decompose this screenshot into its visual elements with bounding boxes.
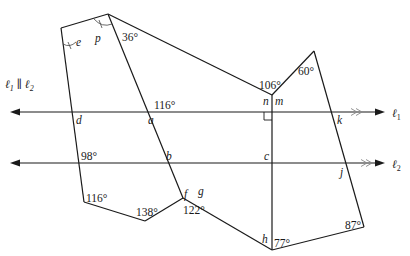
angle-arc-p-icon <box>94 19 112 25</box>
angle-138: 138° <box>136 206 158 218</box>
figure-edges <box>61 14 364 250</box>
angle-116-bottom: 116° <box>86 192 108 204</box>
var-g: g <box>198 185 204 198</box>
angle-116-top: 116° <box>154 99 176 111</box>
angle-60: 60° <box>298 65 315 77</box>
parallel-line-l1 <box>10 109 385 116</box>
var-p: p <box>94 32 101 45</box>
angle-87: 87° <box>345 219 362 231</box>
var-h: h <box>262 233 268 245</box>
var-c: c <box>264 150 269 162</box>
arrowhead-left-l1-icon <box>10 109 20 116</box>
parallel-line-l2 <box>10 160 385 167</box>
var-m: m <box>275 95 283 107</box>
line-label-l2: ℓ2 <box>392 158 401 173</box>
angle-106: 106° <box>259 79 281 91</box>
geometry-diagram: ℓ1 ∥ ℓ2 ℓ1 ℓ2 36° 116° 106° 60° 98° 116°… <box>0 0 410 256</box>
angle-77: 77° <box>274 237 291 249</box>
var-d: d <box>76 114 82 126</box>
var-k: k <box>337 114 343 126</box>
arrowhead-right-l1-icon <box>375 109 385 116</box>
right-angle-mark-icon <box>264 112 272 120</box>
var-a: a <box>148 114 154 126</box>
var-b: b <box>166 150 172 162</box>
angle-arcs <box>63 19 112 49</box>
var-e: e <box>76 36 81 48</box>
angle-36: 36° <box>122 31 139 43</box>
arrowhead-left-l2-icon <box>10 160 20 167</box>
line-label-l1: ℓ1 <box>392 107 401 122</box>
var-n: n <box>263 95 269 107</box>
parallel-statement-label: ℓ1 ∥ ℓ2 <box>5 78 34 93</box>
arc-tick-p-icon <box>99 20 102 28</box>
var-f: f <box>184 188 189 201</box>
angle-122: 122° <box>183 204 205 216</box>
arrowhead-right-l2-icon <box>375 160 385 167</box>
angle-98: 98° <box>81 150 98 162</box>
var-j: j <box>338 166 343 179</box>
